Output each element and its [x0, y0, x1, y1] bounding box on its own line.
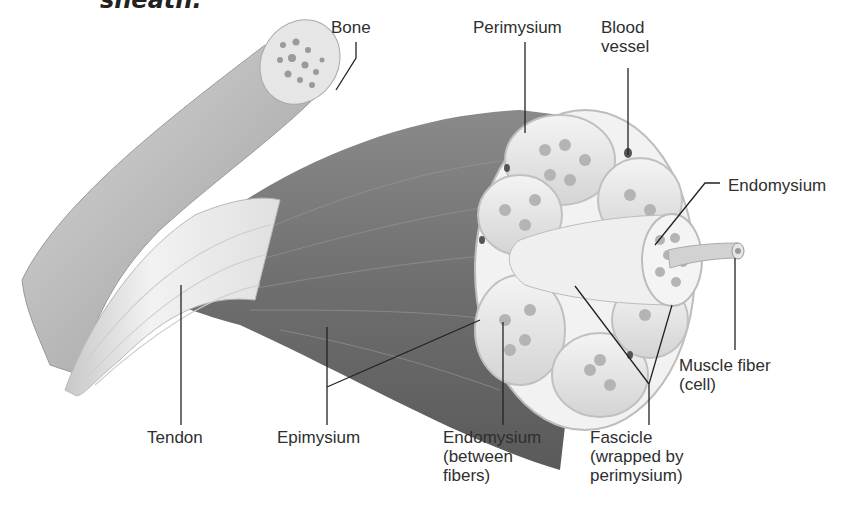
label-bone: Bone [331, 18, 371, 37]
label-perimysium: Perimysium [473, 18, 562, 37]
label-endomysium-bottom: Endomysium (between fibers) [443, 428, 541, 485]
label-epimysium: Epimysium [277, 428, 360, 447]
label-tendon: Tendon [147, 428, 203, 447]
label-blood-vessel: Blood vessel [601, 18, 649, 56]
muscle-illustration [0, 0, 862, 517]
label-endomysium-right: Endomysium [728, 176, 826, 195]
label-muscle-fiber: Muscle fiber (cell) [679, 356, 771, 394]
label-fascicle: Fascicle (wrapped by perimysium) [590, 428, 684, 485]
